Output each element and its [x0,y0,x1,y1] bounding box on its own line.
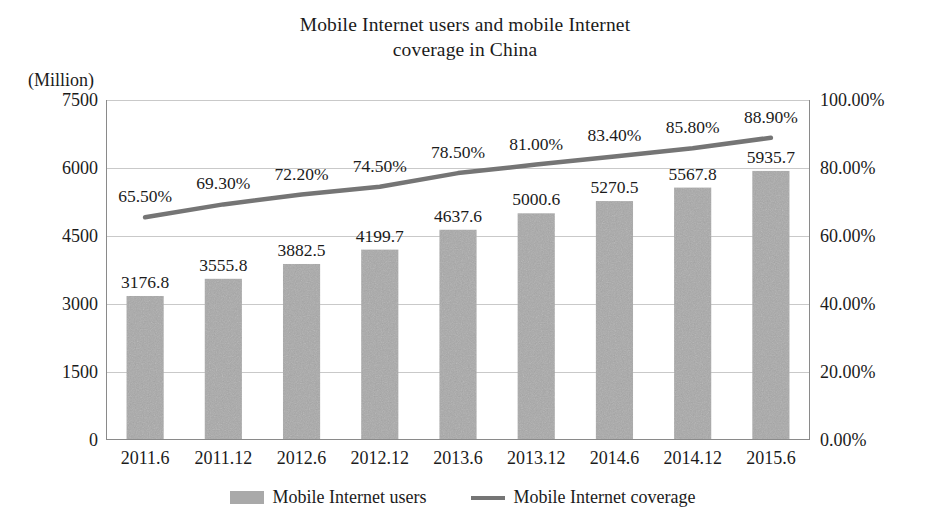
y-axis-tick-label: 6000 [62,159,98,177]
chart-title: Mobile Internet users and mobile Interne… [205,12,725,62]
y2-axis-tick-label: 20.00% [820,363,876,381]
legend-item-mobile-internet-coverage[interactable]: Mobile Internet coverage [471,487,696,508]
chart-title-line-1: Mobile Internet users and mobile Interne… [300,14,631,35]
y-axis-tick-label: 0 [89,431,98,449]
y-axis-right: 0.00%20.00%40.00%60.00%80.00%100.00% [820,100,920,440]
coverage-value-label: 69.30% [196,174,250,192]
bar[interactable] [205,279,242,440]
bar[interactable] [596,201,633,440]
bar-value-label: 4637.6 [434,207,482,225]
x-axis-tick-label: 2011.6 [121,448,170,469]
legend-label: Mobile Internet coverage [514,487,696,508]
coverage-value-label: 78.50% [431,143,485,161]
x-axis-tick-label: 2012.6 [277,448,327,469]
y-axis-tick-label: 1500 [62,363,98,381]
y-axis-tick-label: 3000 [62,295,98,313]
y-axis-left: 015003000450060007500 [20,100,98,440]
bar[interactable] [283,264,320,440]
x-axis: 2011.62011.122012.62012.122013.62013.122… [106,448,810,476]
bar-value-label: 5935.7 [747,148,795,166]
x-axis-tick-label: 2013.12 [507,448,566,469]
x-axis-tick-label: 2012.12 [351,448,410,469]
bar[interactable] [361,250,398,440]
x-axis-tick-label: 2014.12 [663,448,722,469]
legend-label: Mobile Internet users [273,487,427,508]
bar-value-label: 5567.8 [669,165,717,183]
bar-value-label: 3555.8 [199,256,247,274]
coverage-value-label: 85.80% [666,118,720,136]
x-axis-tick-label: 2013.6 [433,448,483,469]
bar-value-label: 3882.5 [277,241,325,259]
chart-title-line-2: coverage in China [393,39,537,60]
bar[interactable] [127,296,164,440]
y2-axis-tick-label: 0.00% [820,431,867,449]
line-swatch-icon [471,496,505,500]
chart-container: Mobile Internet users and mobile Interne… [0,0,925,527]
coverage-value-label: 81.00% [509,135,563,153]
y2-axis-tick-label: 60.00% [820,227,876,245]
x-axis-tick-label: 2011.12 [194,448,252,469]
x-axis-tick-label: 2014.6 [590,448,640,469]
bar[interactable] [752,171,789,440]
coverage-value-label: 65.50% [118,187,172,205]
y2-axis-tick-label: 80.00% [820,159,876,177]
chart-legend: Mobile Internet users Mobile Internet co… [0,487,925,508]
coverage-value-label: 88.90% [744,108,798,126]
y-axis-tick-label: 4500 [62,227,98,245]
y-axis-unit-label: (Million) [28,70,94,91]
bar-value-label: 3176.8 [121,273,169,291]
bar-swatch-icon [230,491,264,504]
y-axis-tick-label: 7500 [62,91,98,109]
bar[interactable] [518,213,555,440]
y2-axis-tick-label: 100.00% [820,91,885,109]
plot-area: 3176.83555.83882.54199.74637.65000.65270… [106,100,810,440]
coverage-value-label: 74.50% [353,157,407,175]
legend-item-mobile-internet-users[interactable]: Mobile Internet users [230,487,427,508]
bar[interactable] [439,230,476,440]
bar[interactable] [674,188,711,440]
y2-axis-tick-label: 40.00% [820,295,876,313]
bar-value-label: 5000.6 [512,190,560,208]
bar-value-label: 5270.5 [590,178,638,196]
coverage-value-label: 72.20% [275,165,329,183]
coverage-value-label: 83.40% [587,126,641,144]
x-axis-tick-label: 2015.6 [746,448,796,469]
bar-value-label: 4199.7 [356,227,404,245]
